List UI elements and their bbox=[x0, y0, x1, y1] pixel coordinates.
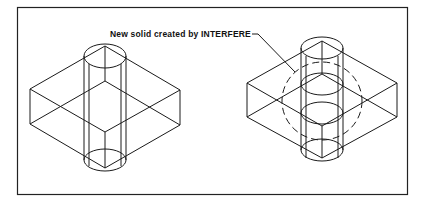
drawing-canvas: New solid created by INTERFERE bbox=[0, 0, 428, 201]
right-interference-bottom bbox=[301, 102, 343, 124]
left-solid bbox=[30, 44, 180, 171]
right-solid bbox=[247, 37, 397, 161]
right-interference-top bbox=[301, 73, 343, 95]
leader-line bbox=[252, 34, 295, 72]
diagram-svg: New solid created by INTERFERE bbox=[0, 0, 428, 201]
annotation-label: New solid created by INTERFERE bbox=[110, 29, 251, 39]
